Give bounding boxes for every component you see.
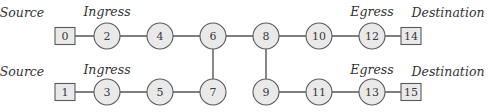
network-diagram: 0246810121413579111315 SourceIngressEgre…: [0, 0, 499, 112]
node-label: 4: [157, 30, 164, 43]
node-label: 15: [404, 86, 418, 99]
label-source-top: Source: [0, 5, 44, 20]
label-egress-top: Egress: [349, 4, 393, 19]
router-node-11: 11: [306, 79, 332, 105]
node-label: 9: [263, 86, 270, 99]
router-node-12: 12: [359, 23, 385, 49]
endpoint-node-1: 1: [55, 84, 75, 101]
router-node-3: 3: [94, 79, 120, 105]
label-source-bottom: Source: [0, 64, 44, 79]
endpoint-node-14: 14: [401, 28, 421, 45]
label-ingress-top: Ingress: [82, 4, 130, 19]
node-label: 11: [312, 86, 326, 99]
node-label: 0: [62, 30, 69, 43]
endpoint-node-0: 0: [55, 28, 75, 45]
node-label: 12: [365, 30, 379, 43]
router-node-10: 10: [306, 23, 332, 49]
router-node-4: 4: [147, 23, 173, 49]
node-label: 2: [104, 30, 111, 43]
label-destination-top: Destination: [411, 5, 485, 20]
router-node-8: 8: [253, 23, 279, 49]
router-node-7: 7: [200, 79, 226, 105]
router-node-2: 2: [94, 23, 120, 49]
label-ingress-bottom: Ingress: [82, 62, 130, 77]
label-egress-bottom: Egress: [349, 62, 393, 77]
router-node-13: 13: [359, 79, 385, 105]
router-node-9: 9: [253, 79, 279, 105]
node-label: 5: [157, 86, 164, 99]
node-label: 1: [62, 86, 69, 99]
router-node-5: 5: [147, 79, 173, 105]
endpoint-node-15: 15: [401, 84, 421, 101]
node-label: 8: [263, 30, 270, 43]
node-label: 10: [312, 30, 326, 43]
node-label: 7: [210, 86, 217, 99]
node-label: 14: [404, 30, 418, 43]
router-node-6: 6: [200, 23, 226, 49]
node-label: 6: [210, 30, 217, 43]
node-label: 3: [104, 86, 111, 99]
node-label: 13: [365, 86, 379, 99]
label-destination-bottom: Destination: [411, 64, 485, 79]
